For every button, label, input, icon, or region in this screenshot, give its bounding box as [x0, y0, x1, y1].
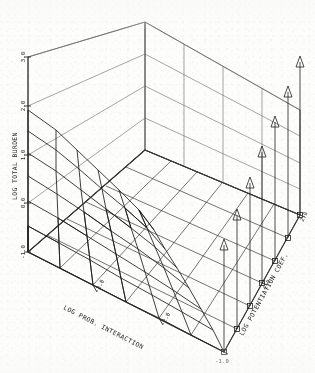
z-tick-label: 1.0	[20, 150, 26, 160]
right-wall-verticals	[145, 22, 300, 215]
y-tick-label: -1.0	[215, 358, 229, 364]
z-tick-label: 2.0	[20, 101, 26, 111]
z-tick-label: 3.0	[20, 52, 26, 62]
x-tick-label: -3.0	[94, 278, 106, 293]
z-axis-ticks: 3.0 2.0 1.0 0.0 -1.0	[20, 52, 31, 259]
chart-canvas: 3.0 2.0 1.0 0.0 -1.0 LOG TOTAL BURDEN -3…	[0, 0, 315, 373]
staircase-silhouette	[28, 208, 154, 302]
x-axis-ticks: -3.0 -2.0	[93, 278, 171, 326]
y-axis-title: LOG POTENTIATION COEF.	[238, 251, 289, 336]
z-tick-label: -1.0	[20, 245, 26, 259]
z-axis-title: LOG TOTAL BURDEN	[11, 132, 18, 200]
right-wall-gridlines	[145, 22, 300, 215]
surface-cross-5	[28, 153, 177, 268]
z-tick-label: 0.0	[20, 198, 26, 208]
surface-cross-3	[28, 201, 201, 309]
surface-plot-3d: 3.0 2.0 1.0 0.0 -1.0 LOG TOTAL BURDEN -3…	[0, 0, 315, 373]
back-walls	[28, 22, 300, 252]
surface-mesh	[28, 110, 224, 352]
x-axis-title: LOG PROB. INTERACTION	[63, 304, 146, 351]
surface-cross-6	[28, 131, 165, 249]
